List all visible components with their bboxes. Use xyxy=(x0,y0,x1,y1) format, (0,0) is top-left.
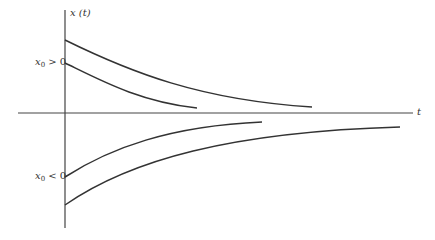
x-axis-label: t xyxy=(417,106,421,117)
y-axis-label: x (t) xyxy=(70,7,91,18)
curve-lower-outer xyxy=(65,127,400,205)
label-x0-negative: x0 < 0 xyxy=(35,170,66,183)
diagram-canvas xyxy=(0,0,435,240)
curve-lower-inner xyxy=(65,122,262,177)
curve-upper-outer xyxy=(65,40,312,107)
label-x0-positive: x0 > 0 xyxy=(35,56,66,69)
